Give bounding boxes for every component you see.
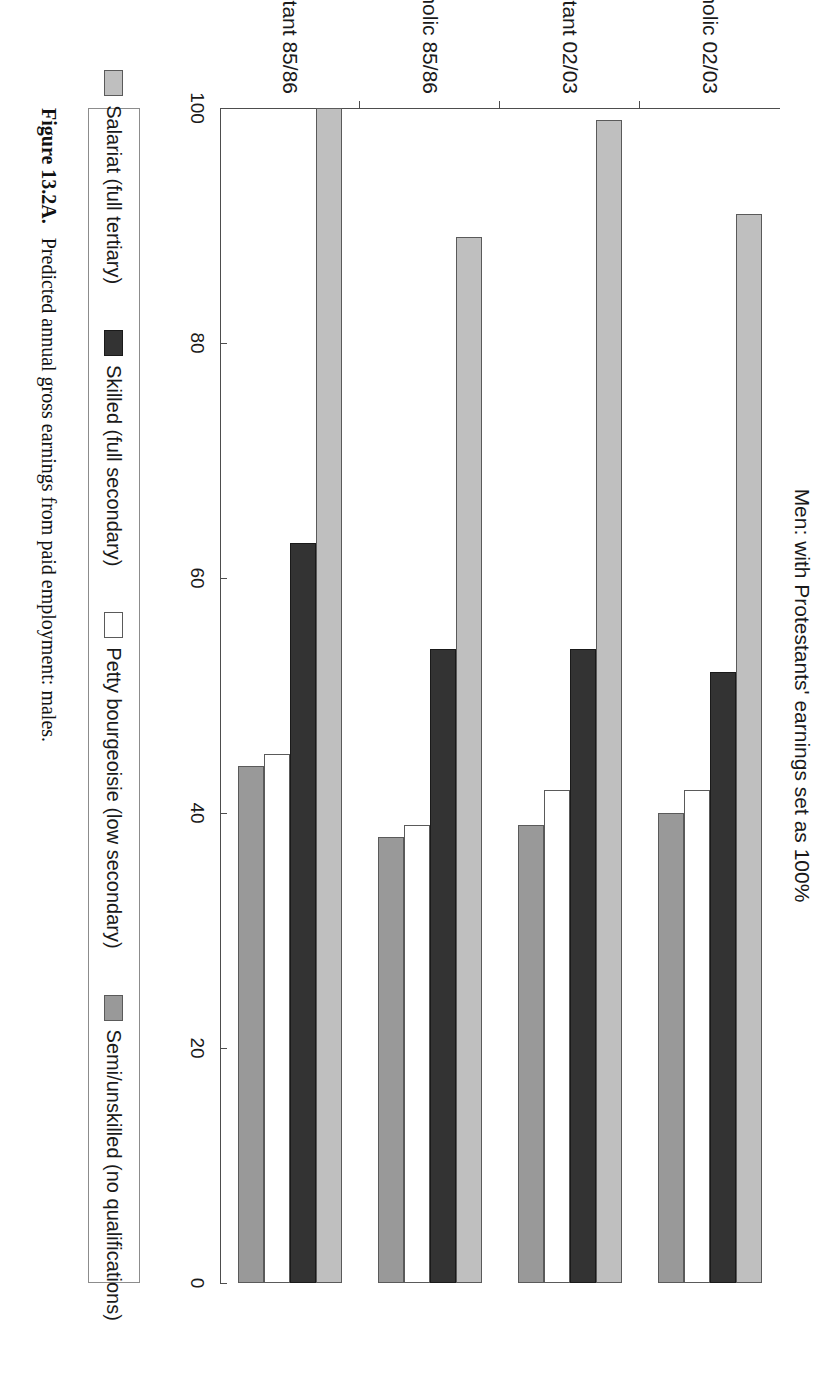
legend-entry: Skilled (full secondary) [103, 330, 126, 566]
value-tick-label: 80 [186, 332, 208, 353]
legend-label: Skilled (full secondary) [103, 365, 126, 566]
value-tick-label: 20 [186, 1037, 208, 1058]
category-label: Protestant 02/03 [558, 0, 582, 94]
category-axis-line [220, 108, 780, 109]
category-label: Catholic 85/86 [418, 0, 442, 94]
value-tick-label: 60 [186, 567, 208, 588]
legend-entry: Salariat (full tertiary) [103, 70, 126, 284]
legend-swatch-icon [105, 70, 124, 96]
bar [238, 766, 264, 1283]
bar [684, 790, 710, 1284]
bar [544, 790, 570, 1284]
legend-label: Salariat (full tertiary) [103, 105, 126, 284]
chart-title: Men: with Protestants' earnings set as 1… [790, 108, 814, 1283]
bar [736, 214, 762, 1283]
bar [404, 825, 430, 1283]
bar [456, 237, 482, 1283]
legend-swatch-icon [105, 330, 124, 356]
legend-label: Petty bourgeoisie (low secondary) [103, 647, 126, 948]
category-tick [359, 101, 360, 108]
value-tick [220, 108, 227, 109]
bar [710, 672, 736, 1283]
figure-caption: Figure 13.2A.Predicted annual gross earn… [37, 108, 60, 1308]
bar [290, 543, 316, 1283]
category-tick [639, 101, 640, 108]
figure-caption-text: Predicted annual gross earnings from pai… [38, 238, 60, 742]
legend-label: Semi/unskilled (no qualifications) [103, 1030, 126, 1321]
value-axis-line [220, 108, 221, 1283]
value-tick-label: 100 [186, 92, 208, 124]
legend-entry: Semi/unskilled (no qualifications) [103, 995, 126, 1321]
category-label: Catholic 02/03 [698, 0, 722, 94]
value-tick-label: 40 [186, 802, 208, 823]
bar [518, 825, 544, 1283]
value-tick-label: 0 [186, 1278, 208, 1289]
figure-caption-label: Figure 13.2A. [38, 108, 60, 224]
bar [596, 120, 622, 1283]
plot-area: 100806040200 Protestant 85/86Catholic 85… [220, 108, 780, 1283]
value-tick [220, 1283, 227, 1284]
bar [570, 649, 596, 1284]
value-tick [220, 1048, 227, 1049]
category-label: Protestant 85/86 [278, 0, 302, 94]
value-tick [220, 813, 227, 814]
value-tick [220, 343, 227, 344]
legend-swatch-icon [105, 612, 124, 638]
bar [316, 108, 342, 1283]
value-tick [220, 578, 227, 579]
legend-swatch-icon [105, 995, 124, 1021]
bar [658, 813, 684, 1283]
legend-entry: Petty bourgeoisie (low secondary) [103, 612, 126, 948]
legend: Salariat (full tertiary)Skilled (full se… [88, 108, 140, 1283]
category-tick [499, 101, 500, 108]
bar [430, 649, 456, 1284]
bar [264, 754, 290, 1283]
bar [378, 837, 404, 1284]
